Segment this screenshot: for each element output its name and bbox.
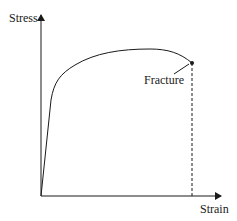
stress-strain-diagram	[0, 0, 237, 221]
y-axis-label: Stress	[9, 12, 38, 24]
x-axis-label: Strain	[200, 203, 229, 215]
fracture-point	[190, 61, 194, 65]
fracture-label: Fracture	[144, 74, 184, 86]
stress-strain-curve	[41, 49, 192, 196]
